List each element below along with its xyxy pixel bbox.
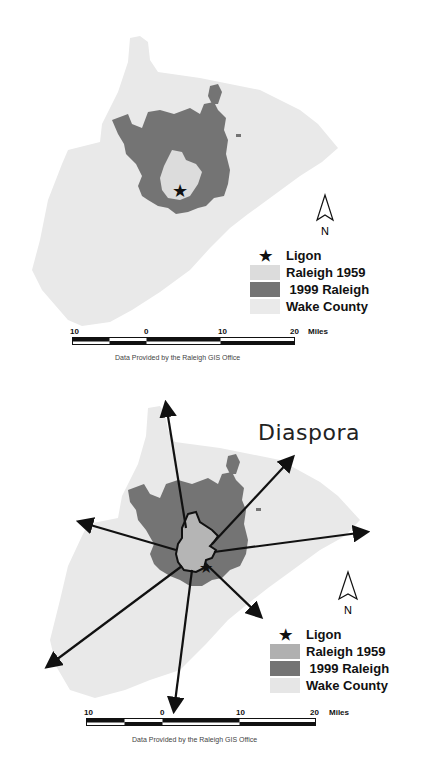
scale-tick: 10 <box>70 327 79 336</box>
north-label: N <box>336 604 360 616</box>
map-panel-top: ★ N ★ Ligon Raleigh 1959 1999 Raleigh Wa… <box>0 0 422 380</box>
legend-label: Wake County <box>286 299 368 314</box>
legend-bottom: ★ Ligon Raleigh 1959 1999 Raleigh Wake C… <box>270 626 389 694</box>
legend-label: Ligon <box>306 627 341 642</box>
scale-bar-top: 10 0 10 20 Miles <box>72 327 334 348</box>
legend-label: Wake County <box>306 678 388 693</box>
legend-label: Raleigh 1959 <box>306 644 386 659</box>
scale-tick: 10 <box>218 327 227 336</box>
ligon-star-icon: ★ <box>172 181 188 201</box>
legend-label: Raleigh 1959 <box>286 265 366 280</box>
north-arrow: N <box>336 570 360 616</box>
north-arrow-icon <box>313 193 337 223</box>
map-panel-bottom: ★ Diaspora N ★ Ligon Raleigh 1959 1999 R… <box>0 380 422 767</box>
legend-swatch <box>250 265 280 280</box>
legend-item-ligon: ★ Ligon <box>250 247 369 264</box>
star-icon: ★ <box>270 626 300 644</box>
north-label: N <box>313 225 337 237</box>
scale-unit: Miles <box>329 708 349 717</box>
north-arrow-icon <box>336 570 360 602</box>
legend-swatch <box>270 644 300 659</box>
legend-item-raleigh-1999: 1999 Raleigh <box>250 281 369 298</box>
ligon-star-icon: ★ <box>199 559 213 576</box>
legend-item-raleigh-1959: Raleigh 1959 <box>270 643 389 660</box>
legend-label: 1999 Raleigh <box>306 661 389 676</box>
wake-county-map: ★ <box>0 0 422 380</box>
legend-swatch <box>270 661 300 676</box>
legend-label: Ligon <box>286 248 321 263</box>
scale-tick: 10 <box>84 708 93 717</box>
legend-swatch <box>270 678 300 693</box>
map-title: Diaspora <box>258 420 360 445</box>
legend-item-ligon: ★ Ligon <box>270 626 389 643</box>
scale-unit: Miles <box>308 327 328 336</box>
scale-bar-bottom: 10 0 10 20 Miles <box>86 708 356 729</box>
legend-item-wake-county: Wake County <box>250 298 369 315</box>
scale-bar-graphic <box>86 718 318 727</box>
legend-top: ★ Ligon Raleigh 1959 1999 Raleigh Wake C… <box>250 247 369 315</box>
north-arrow: N <box>313 193 337 237</box>
scale-bar-graphic <box>72 337 297 346</box>
scale-tick: 20 <box>290 327 299 336</box>
scale-tick: 0 <box>144 327 148 336</box>
legend-item-raleigh-1999: 1999 Raleigh <box>270 660 389 677</box>
scale-tick: 20 <box>310 708 319 717</box>
data-credit: Data Provided by the Raleigh GIS Office <box>115 354 240 361</box>
legend-swatch <box>250 299 280 314</box>
star-icon: ★ <box>250 247 280 265</box>
legend-label: 1999 Raleigh <box>286 282 369 297</box>
data-credit: Data Provided by the Raleigh GIS Office <box>132 736 257 743</box>
scale-tick: 0 <box>160 708 164 717</box>
legend-item-raleigh-1959: Raleigh 1959 <box>250 264 369 281</box>
scale-tick: 10 <box>236 708 245 717</box>
legend-swatch <box>250 282 280 297</box>
legend-item-wake-county: Wake County <box>270 677 389 694</box>
